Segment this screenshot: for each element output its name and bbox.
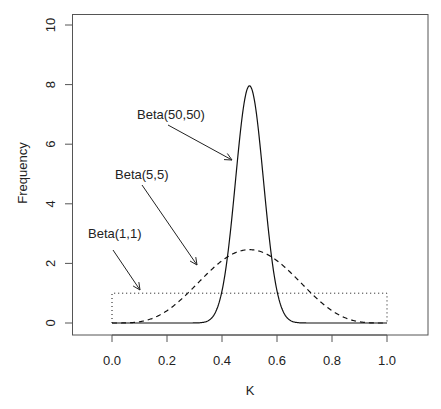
y-tick-label: 2 [43, 260, 58, 267]
annotation: Beta(5,5) [115, 167, 197, 265]
annotation: Beta(50,50) [137, 107, 232, 160]
curve-beta-5-5 [112, 250, 387, 323]
beta-distribution-chart: 0.00.20.40.60.81.0 0246810 Beta(50,50)Be… [0, 0, 441, 409]
x-tick-label: 0.0 [103, 353, 121, 368]
arrow-line [142, 185, 197, 265]
annotation-label: Beta(50,50) [137, 107, 205, 122]
y-tick-label: 6 [43, 141, 58, 148]
annotation-label: Beta(1,1) [88, 226, 141, 241]
y-tick-label: 0 [43, 319, 58, 326]
y-tick-label: 10 [43, 18, 58, 32]
x-tick-label: 0.4 [213, 353, 231, 368]
y-tick-label: 4 [43, 200, 58, 207]
annotations: Beta(50,50)Beta(5,5)Beta(1,1) [88, 107, 232, 290]
x-tick-label: 0.8 [323, 353, 341, 368]
x-axis: 0.00.20.40.60.81.0 [103, 335, 396, 368]
x-tick-label: 0.6 [268, 353, 286, 368]
y-axis-title: Frequency [15, 142, 30, 204]
x-tick-label: 0.2 [158, 353, 176, 368]
annotation: Beta(1,1) [88, 226, 141, 290]
x-tick-label: 1.0 [378, 353, 396, 368]
y-tick-label: 8 [43, 81, 58, 88]
annotation-label: Beta(5,5) [115, 167, 168, 182]
arrow-line [168, 125, 232, 160]
y-axis: 0246810 [43, 18, 73, 327]
arrow-line [113, 250, 140, 290]
x-axis-title: K [246, 383, 255, 398]
